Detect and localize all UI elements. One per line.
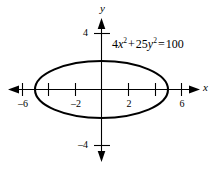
x-axis-arrow-left xyxy=(8,86,19,94)
graph-figure: y x –6 –2 2 6 4 –4 4x2+25y2=100 xyxy=(0,0,215,172)
x-tick-label--2: –2 xyxy=(65,99,87,109)
x-tick-label--6: –6 xyxy=(12,99,34,109)
coordinate-plane-svg xyxy=(0,0,215,172)
equation-plus: + xyxy=(127,37,136,51)
y-tick-label-4: 4 xyxy=(70,28,88,38)
x-tick-label-2: 2 xyxy=(119,99,139,109)
equation-equals: = xyxy=(157,37,166,51)
x-axis-arrow-right xyxy=(189,86,200,94)
equation-coef-y: 25 xyxy=(136,37,148,51)
y-axis-arrow-up xyxy=(98,18,106,29)
x-tick-label-6: 6 xyxy=(172,99,192,109)
equation-annotation: 4x2+25y2=100 xyxy=(112,38,184,50)
x-axis-label: x xyxy=(203,82,208,93)
y-tick-label--4: –4 xyxy=(68,140,88,150)
y-axis-arrow-down xyxy=(98,151,106,162)
y-axis-label: y xyxy=(100,3,105,14)
equation-rhs: 100 xyxy=(166,37,184,51)
